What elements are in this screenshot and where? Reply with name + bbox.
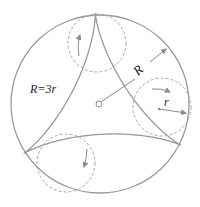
rotation-arrow-top-icon — [78, 35, 80, 56]
ratio-label: R=3r — [29, 82, 56, 96]
big-radius-label: R — [129, 62, 146, 79]
center-point — [96, 101, 102, 107]
rotation-arrow-right-icon — [152, 89, 170, 92]
rolling-circle-right — [133, 78, 191, 136]
small-radius-label: r — [164, 95, 169, 109]
big-radius-arrow-icon — [150, 49, 166, 62]
small-radius-arrow-icon — [159, 109, 186, 113]
big-radius-line — [102, 79, 136, 102]
rolling-circle-bottom-left — [37, 134, 95, 192]
rotation-arrow-bottom-left-icon — [84, 149, 87, 167]
deltoid-diagram: R=3r R r — [0, 0, 200, 207]
